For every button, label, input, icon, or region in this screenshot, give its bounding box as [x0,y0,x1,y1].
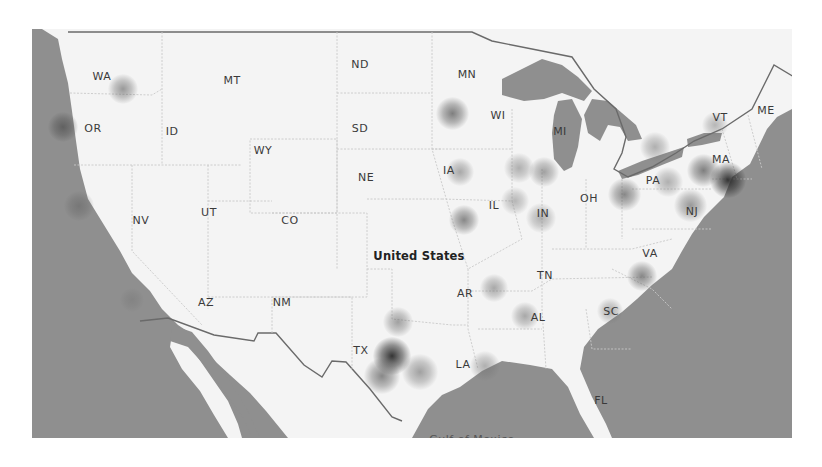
state-label-wa: WA [93,70,112,83]
heat-spot-houston[interactable] [402,354,437,389]
state-label-me: ME [757,104,774,117]
state-label-id: ID [166,125,179,138]
state-label-ma: MA [712,153,730,166]
state-label-ia: IA [443,164,455,177]
state-label-tn: TN [537,269,553,282]
state-label-nm: NM [273,296,292,309]
heat-spot-san-antonio[interactable] [364,358,399,393]
state-label-ne: NE [358,171,374,184]
state-label-oh: OH [580,192,598,205]
heat-spot-los-angeles[interactable] [120,288,144,312]
state-label-ut: UT [201,206,217,219]
state-label-mi: MI [553,125,567,138]
state-label-or: OR [84,122,101,135]
state-label-co: CO [281,214,298,227]
heat-spot-minneapolis[interactable] [436,97,469,130]
heat-spot-columbus-pittsburgh[interactable] [608,178,641,211]
map-canvas[interactable]: WAORIDMTWYNDSDNENVUTCOAZNMTXMNWIIAILINMI… [32,29,792,438]
state-label-wi: WI [490,109,505,122]
state-label-wy: WY [254,144,273,157]
country-label: United States [373,249,464,263]
state-label-sc: SC [603,305,619,318]
state-label-mn: MN [458,68,477,81]
sea-label: Gulf of Mexico [429,433,514,439]
heat-spot-boston[interactable] [710,162,745,197]
state-label-az: AZ [198,296,214,309]
state-label-ar: AR [457,287,473,300]
state-label-fl: FL [594,394,607,407]
state-label-in: IN [537,207,549,220]
state-label-mt: MT [223,74,240,87]
state-label-sd: SD [352,122,368,135]
state-label-il: IL [489,199,499,212]
state-label-va: VA [642,247,657,260]
state-label-la: LA [456,358,471,371]
state-label-nv: NV [133,214,150,227]
state-label-pa: PA [646,174,660,187]
state-label-nj: NJ [686,205,698,218]
state-label-nd: ND [351,58,369,71]
state-label-vt: VT [712,111,727,124]
state-label-al: AL [531,311,546,324]
state-label-tx: TX [353,344,368,357]
